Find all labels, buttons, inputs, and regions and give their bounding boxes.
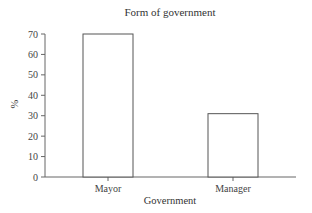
y-tick-label: 40 <box>28 90 38 101</box>
y-tick-label: 60 <box>28 49 38 60</box>
bar-manager <box>208 114 258 177</box>
bar-chart: Form of government 010203040506070 Mayor… <box>0 0 312 213</box>
y-tick-label: 70 <box>28 29 38 40</box>
bar-mayor <box>83 34 133 177</box>
x-tick-label: Manager <box>215 183 251 194</box>
y-tick-label: 20 <box>28 131 38 142</box>
y-tick-label: 10 <box>28 151 38 162</box>
x-tick-label: Mayor <box>95 183 122 194</box>
bars <box>83 34 258 177</box>
y-axis: 010203040506070 <box>28 29 45 183</box>
y-tick-label: 0 <box>33 172 38 183</box>
x-axis: MayorManager <box>45 177 296 194</box>
y-axis-label: % <box>9 99 20 108</box>
y-tick-label: 50 <box>28 69 38 80</box>
y-tick-label: 30 <box>28 110 38 121</box>
x-axis-label: Government <box>144 195 197 206</box>
chart-title: Form of government <box>124 6 215 18</box>
